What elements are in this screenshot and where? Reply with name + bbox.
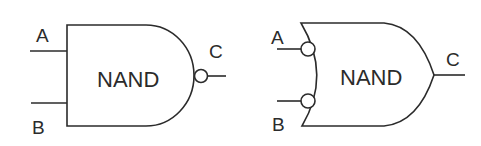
- output-inversion-bubble: [195, 70, 208, 83]
- output-c-label: C: [446, 49, 460, 70]
- gate-label: NAND: [340, 65, 402, 90]
- input-b-label: B: [32, 117, 45, 138]
- or-style-nand-gate: NAND A B C: [271, 23, 465, 135]
- input-b-inversion-bubble: [301, 94, 315, 108]
- output-c-label: C: [209, 41, 223, 62]
- input-b-label: B: [272, 114, 285, 135]
- and-style-nand-gate: NAND A B C: [30, 25, 226, 138]
- input-a-inversion-bubble: [301, 42, 315, 56]
- input-a-label: A: [36, 25, 49, 46]
- nand-equivalence-diagram: NAND A B C NAND A B C: [0, 0, 481, 146]
- gate-label: NAND: [97, 67, 159, 92]
- input-a-label: A: [271, 27, 284, 48]
